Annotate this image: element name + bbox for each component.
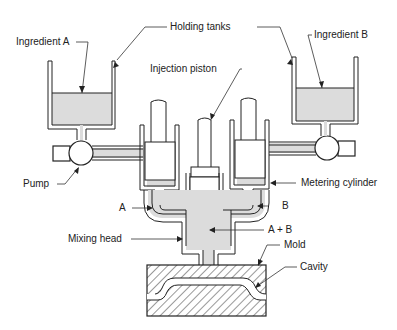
label-a-plus-b: A + B [268, 225, 292, 235]
mixing-head [144, 190, 269, 265]
right-holding-tank [292, 57, 358, 136]
label-b: B [282, 201, 289, 211]
right-pump [269, 136, 355, 160]
label-holding-tanks: Holding tanks [170, 22, 231, 32]
left-metering-cylinder [140, 100, 179, 205]
label-cavity: Cavity [300, 262, 328, 272]
mold [147, 265, 266, 316]
label-mixing-head: Mixing head [68, 234, 122, 244]
label-ingredient-b: Ingredient B [314, 30, 368, 40]
label-ingredient-a: Ingredient A [16, 37, 69, 47]
label-pump: Pump [23, 179, 49, 189]
left-holding-tank [48, 61, 115, 141]
label-injection-piston: Injection piston [150, 64, 217, 74]
label-metering-cylinder: Metering cylinder [301, 178, 377, 188]
right-metering-cylinder [230, 98, 269, 205]
label-mold: Mold [284, 240, 306, 250]
label-a: A [119, 203, 126, 213]
rim-diagram [0, 0, 397, 330]
left-pump [53, 141, 144, 165]
